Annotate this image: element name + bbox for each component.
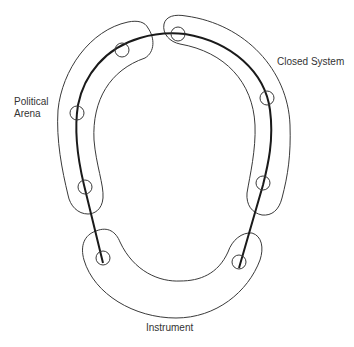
political-arena-label-line2: Arena — [14, 108, 48, 120]
diagram-svg — [0, 0, 354, 347]
political-arena-label: Political Arena — [14, 96, 48, 120]
instrument-label: Instrument — [146, 322, 193, 334]
closed-system-label: Closed System — [277, 56, 344, 68]
political-arena-label-line1: Political — [14, 96, 48, 108]
instrument-band — [83, 229, 262, 318]
diagram-canvas: Political Arena Closed System Instrument — [0, 0, 354, 347]
trajectory-line — [76, 33, 271, 268]
